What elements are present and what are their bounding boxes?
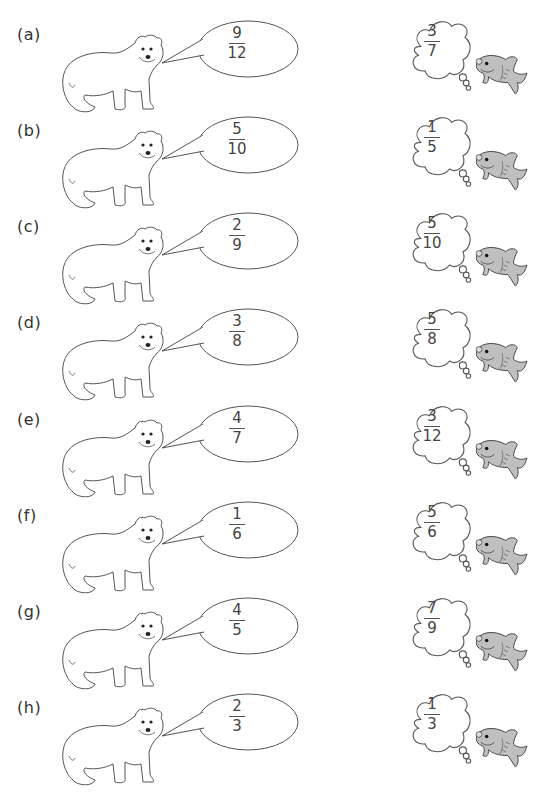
problem-label: (c) <box>17 217 40 236</box>
bear-fraction: 9 12 <box>222 25 252 62</box>
problem-row: (d) 3 8 5 8 <box>0 313 549 409</box>
polar-bear-icon <box>55 29 175 115</box>
fish-icon <box>472 50 532 96</box>
denominator: 10 <box>422 235 441 252</box>
denominator: 5 <box>427 139 437 156</box>
numerator: 3 <box>232 313 242 330</box>
polar-bear-icon <box>55 414 175 500</box>
denominator: 7 <box>427 43 437 60</box>
fish-icon <box>472 435 532 481</box>
denominator: 9 <box>232 237 242 254</box>
fish-icon <box>472 146 532 192</box>
fish-icon <box>472 242 532 288</box>
numerator: 7 <box>427 600 437 617</box>
bear-fraction: 1 6 <box>222 506 252 543</box>
numerator: 3 <box>427 23 437 40</box>
fish-fraction: 1 5 <box>417 119 447 156</box>
numerator: 5 <box>427 504 437 521</box>
fish-fraction: 3 12 <box>417 408 447 445</box>
polar-bear-icon <box>55 510 175 596</box>
denominator: 9 <box>427 620 437 637</box>
problem-label: (g) <box>17 602 41 621</box>
problem-row: (g) 4 5 7 9 <box>0 602 549 698</box>
fish-icon <box>472 723 532 769</box>
bear-fraction: 4 7 <box>222 410 252 447</box>
problem-row: (f) 1 6 5 6 <box>0 506 549 602</box>
numerator: 3 <box>427 408 437 425</box>
numerator: 9 <box>232 25 242 42</box>
fish-fraction: 7 9 <box>417 600 447 637</box>
fish-icon <box>472 338 532 384</box>
numerator: 1 <box>427 696 437 713</box>
denominator: 8 <box>427 331 437 348</box>
numerator: 2 <box>232 698 242 715</box>
numerator: 2 <box>232 217 242 234</box>
problem-row: (c) 2 9 5 10 <box>0 217 549 313</box>
polar-bear-icon <box>55 125 175 211</box>
denominator: 3 <box>232 718 242 735</box>
polar-bear-icon <box>55 221 175 307</box>
denominator: 10 <box>227 141 246 158</box>
problem-label: (e) <box>17 410 41 429</box>
problem-row: (h) 2 3 1 3 <box>0 698 549 794</box>
fish-fraction: 1 3 <box>417 696 447 733</box>
polar-bear-icon <box>55 317 175 403</box>
denominator: 8 <box>232 333 242 350</box>
bear-fraction: 3 8 <box>222 313 252 350</box>
numerator: 4 <box>232 602 242 619</box>
problem-label: (d) <box>17 313 41 332</box>
denominator: 6 <box>427 524 437 541</box>
bear-fraction: 2 9 <box>222 217 252 254</box>
numerator: 1 <box>427 119 437 136</box>
numerator: 5 <box>427 311 437 328</box>
denominator: 12 <box>422 428 441 445</box>
bear-fraction: 4 5 <box>222 602 252 639</box>
denominator: 5 <box>232 622 242 639</box>
denominator: 3 <box>427 716 437 733</box>
polar-bear-icon <box>55 606 175 692</box>
fish-fraction: 5 8 <box>417 311 447 348</box>
denominator: 7 <box>232 430 242 447</box>
problem-label: (a) <box>17 25 41 44</box>
problem-label: (b) <box>17 121 41 140</box>
bear-fraction: 2 3 <box>222 698 252 735</box>
numerator: 1 <box>232 506 242 523</box>
fish-fraction: 5 10 <box>417 215 447 252</box>
problem-row: (e) 4 7 3 12 <box>0 410 549 506</box>
fish-icon <box>472 531 532 577</box>
problem-row: (b) 5 10 1 5 <box>0 121 549 217</box>
fish-fraction: 5 6 <box>417 504 447 541</box>
problem-label: (h) <box>17 698 41 717</box>
numerator: 4 <box>232 410 242 427</box>
fish-fraction: 3 7 <box>417 23 447 60</box>
fish-icon <box>472 627 532 673</box>
numerator: 5 <box>427 215 437 232</box>
problem-label: (f) <box>17 506 37 525</box>
denominator: 12 <box>227 45 246 62</box>
problem-row: (a) 9 12 3 7 <box>0 25 549 121</box>
bear-fraction: 5 10 <box>222 121 252 158</box>
numerator: 5 <box>232 121 242 138</box>
polar-bear-icon <box>55 702 175 788</box>
denominator: 6 <box>232 526 242 543</box>
